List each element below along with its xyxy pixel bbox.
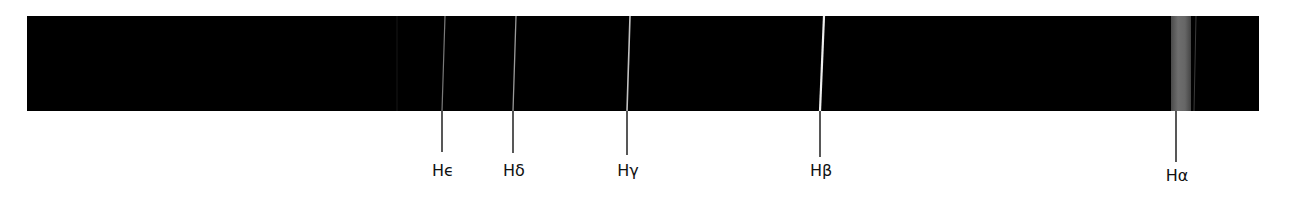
label-h-beta: Hβ (810, 161, 832, 180)
spectrum-band (27, 16, 1259, 111)
h-alpha-band (1171, 16, 1191, 111)
line-ticks (442, 111, 1176, 162)
label-h-delta: Hδ (503, 161, 525, 180)
spectrum-diagram: Hϵ Hδ Hγ Hβ Hα (0, 0, 1290, 212)
label-h-gamma: Hγ (617, 161, 639, 180)
label-h-alpha: Hα (1166, 166, 1189, 185)
spectrum-figure: Hϵ Hδ Hγ Hβ Hα (0, 0, 1290, 212)
label-h-epsilon: Hϵ (432, 161, 454, 180)
line-labels: Hϵ Hδ Hγ Hβ Hα (432, 161, 1188, 185)
